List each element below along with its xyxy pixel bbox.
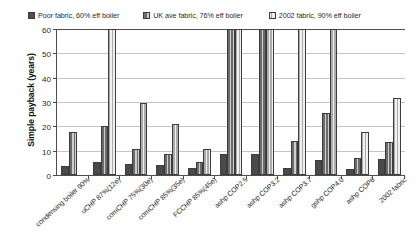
bar-group: [120, 30, 152, 175]
bar-group: [278, 30, 310, 175]
bar: [346, 169, 354, 175]
x-axis-label: ashp COP3.2: [245, 176, 281, 210]
bar: [298, 29, 306, 175]
bar: [188, 168, 196, 175]
bar: [330, 29, 338, 175]
y-axis-tick-label: 50: [42, 50, 51, 59]
bar: [322, 113, 330, 175]
legend-swatch-icon: [143, 12, 150, 19]
y-axis-tick-label: 30: [42, 99, 51, 108]
y-axis-tick-label: 60: [42, 26, 51, 35]
bar: [203, 149, 211, 175]
bar-group: [215, 30, 247, 175]
legend-item-uk-ave-fabric: UK ave fabric, 76% eff boiler: [143, 11, 243, 20]
bar: [259, 29, 267, 175]
x-axis-label: 2002 fabric: [378, 176, 409, 205]
bar-groups: [57, 30, 405, 175]
legend-label: 2002 fabric, 90% eff boiler: [279, 11, 361, 20]
legend-item-poor-fabric: Poor fabric, 60% eff boiler: [28, 11, 119, 20]
bar-group: [373, 30, 405, 175]
bar: [266, 29, 274, 175]
bar: [108, 29, 116, 175]
bar-group: [247, 30, 279, 175]
plot-area: 0102030405060: [56, 30, 405, 176]
legend-swatch-icon: [269, 12, 276, 19]
bar: [132, 149, 140, 175]
bar: [140, 103, 148, 175]
bar: [156, 165, 164, 175]
bar: [227, 29, 235, 175]
bar: [315, 160, 323, 175]
bar: [172, 124, 180, 175]
bar: [125, 164, 133, 175]
bar: [196, 162, 204, 175]
bar-group: [342, 30, 374, 175]
bar: [283, 168, 291, 175]
x-axis-label: condensing boiler 90%: [34, 176, 91, 229]
x-axis-labels: condensing boiler 90%uCHP 87%(12e)comCHP…: [56, 176, 405, 252]
legend-label: UK ave fabric, 76% eff boiler: [153, 11, 243, 20]
legend-label: Poor fabric, 60% eff boiler: [38, 11, 119, 20]
bar: [361, 132, 369, 175]
y-axis-tick-label: 40: [42, 74, 51, 83]
bar: [235, 29, 243, 175]
bar: [93, 162, 101, 175]
bar: [251, 154, 259, 175]
bar: [378, 159, 386, 175]
bar-group: [184, 30, 216, 175]
y-axis-tick-label: 10: [42, 147, 51, 156]
x-axis-label: ashp COP3.7: [277, 176, 313, 210]
legend-swatch-icon: [28, 12, 35, 19]
bar: [393, 98, 401, 175]
bar: [354, 158, 362, 175]
bar: [101, 126, 109, 175]
bar-group: [310, 30, 342, 175]
bar-group: [89, 30, 121, 175]
bar-group: [152, 30, 184, 175]
bar: [61, 166, 69, 175]
bar: [385, 142, 393, 175]
legend-item-2002-fabric: 2002 fabric, 90% eff boiler: [269, 11, 361, 20]
x-axis-label: ashp COP2.5: [214, 176, 250, 210]
bar-group: [57, 30, 89, 175]
chart-legend: Poor fabric, 60% eff boiler UK ave fabri…: [18, 8, 410, 22]
chart-container: Poor fabric, 60% eff boiler UK ave fabri…: [0, 0, 420, 252]
bar: [291, 141, 299, 175]
bar: [164, 154, 172, 175]
y-axis-tick-label: 0: [47, 172, 51, 181]
y-axis-tick-label: 20: [42, 123, 51, 132]
y-axis-title: Simple payback (years): [26, 25, 36, 175]
bar: [220, 154, 228, 175]
bar: [69, 132, 77, 175]
x-axis-label: ashp COP6: [345, 176, 377, 206]
